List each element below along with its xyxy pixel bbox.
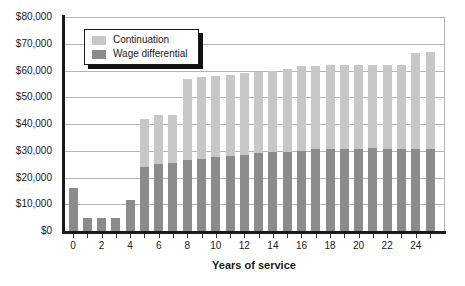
x-axis-line — [62, 231, 446, 234]
bar-segment-wage-differential — [354, 149, 363, 231]
bar-segment-continuation — [154, 115, 163, 164]
x-tick — [130, 234, 131, 238]
bar-segment-continuation — [368, 65, 377, 148]
x-tick — [230, 234, 231, 238]
y-tick-label: $40,000 — [0, 119, 52, 129]
bar-segment-wage-differential — [283, 152, 292, 231]
bar-segment-continuation — [297, 66, 306, 150]
x-tick-label: 16 — [291, 240, 311, 251]
bar-segment-wage-differential — [154, 164, 163, 231]
continuation-swatch-icon — [92, 36, 106, 45]
x-tick-label: 6 — [149, 240, 169, 251]
x-tick — [187, 234, 188, 238]
x-tick-label: 20 — [349, 240, 369, 251]
bar-segment-continuation — [140, 119, 149, 167]
bar-segment-continuation — [426, 52, 435, 150]
legend: Continuation Wage differential — [84, 29, 199, 65]
x-tick — [244, 234, 245, 238]
x-tick — [159, 234, 160, 238]
x-tick-label: 4 — [120, 240, 140, 251]
bar-segment-wage-differential — [140, 167, 149, 231]
y-tick-label: $20,000 — [0, 173, 52, 183]
bar-segment-continuation — [226, 75, 235, 157]
wage-differential-swatch-icon — [92, 50, 106, 59]
bar-segment-wage-differential — [183, 160, 192, 231]
bar-segment-continuation — [283, 69, 292, 152]
x-tick — [259, 234, 260, 238]
y-tick-label: $30,000 — [0, 146, 52, 156]
x-tick — [330, 234, 331, 238]
x-tick — [116, 234, 117, 238]
bar-segment-continuation — [326, 65, 335, 149]
bar-segment-continuation — [254, 72, 263, 154]
y-axis-line — [62, 15, 65, 234]
bar-segment-wage-differential — [254, 153, 263, 231]
y-tick-label: $10,000 — [0, 199, 52, 209]
legend-label: Continuation — [113, 34, 169, 46]
x-tick — [430, 234, 431, 238]
y-tick-label: $60,000 — [0, 66, 52, 76]
x-tick — [87, 234, 88, 238]
bar-segment-wage-differential — [340, 149, 349, 231]
x-tick — [387, 234, 388, 238]
x-tick-label: 14 — [263, 240, 283, 251]
bar-segment-continuation — [268, 71, 277, 153]
legend-label: Wage differential — [113, 48, 188, 60]
x-axis-title: Years of service — [64, 259, 444, 271]
bar-segment-wage-differential — [83, 218, 92, 231]
x-tick — [216, 234, 217, 238]
bar-segment-wage-differential — [426, 149, 435, 231]
x-tick-label: 18 — [320, 240, 340, 251]
bar-segment-wage-differential — [311, 149, 320, 231]
bar-segment-continuation — [183, 79, 192, 161]
bar-segment-wage-differential — [97, 218, 106, 231]
bar-segment-wage-differential — [326, 149, 335, 231]
bar-segment-wage-differential — [368, 148, 377, 231]
bar-segment-wage-differential — [69, 188, 78, 231]
x-tick-label: 24 — [406, 240, 426, 251]
plot-right-border — [444, 17, 445, 231]
y-tick-label: $80,000 — [0, 12, 52, 22]
x-tick — [73, 234, 74, 238]
bar-segment-continuation — [240, 73, 249, 155]
x-tick — [102, 234, 103, 238]
x-tick-label: 0 — [63, 240, 83, 251]
bar-segment-continuation — [411, 53, 420, 149]
y-tick-label: $50,000 — [0, 92, 52, 102]
legend-item-continuation: Continuation — [92, 34, 188, 46]
y-tick-label: $0 — [0, 226, 52, 236]
x-tick-label: 2 — [92, 240, 112, 251]
x-tick — [144, 234, 145, 238]
x-tick-label: 10 — [206, 240, 226, 251]
stacked-bar-chart: $0$10,000$20,000$30,000$40,000$50,000$60… — [0, 0, 465, 286]
bar-segment-wage-differential — [240, 155, 249, 231]
bar-segment-wage-differential — [111, 218, 120, 231]
x-tick — [359, 234, 360, 238]
bar-segment-wage-differential — [226, 156, 235, 231]
x-tick-label: 22 — [377, 240, 397, 251]
x-tick — [287, 234, 288, 238]
x-tick-label: 8 — [177, 240, 197, 251]
gridline — [64, 17, 444, 18]
bar-segment-continuation — [383, 65, 392, 149]
bar-segment-wage-differential — [168, 163, 177, 231]
bar-segment-wage-differential — [126, 200, 135, 231]
bar-segment-continuation — [168, 115, 177, 163]
bar-segment-continuation — [197, 77, 206, 159]
y-tick-label: $70,000 — [0, 39, 52, 49]
bar-segment-continuation — [340, 65, 349, 149]
x-tick — [401, 234, 402, 238]
x-tick — [373, 234, 374, 238]
bar-segment-wage-differential — [383, 149, 392, 231]
x-tick-label: 12 — [234, 240, 254, 251]
legend-item-wage-differential: Wage differential — [92, 48, 188, 60]
bar-segment-wage-differential — [268, 152, 277, 231]
bar-segment-continuation — [397, 65, 406, 149]
x-tick — [416, 234, 417, 238]
x-tick — [202, 234, 203, 238]
x-tick — [273, 234, 274, 238]
bar-segment-wage-differential — [411, 149, 420, 231]
bar-segment-wage-differential — [211, 157, 220, 231]
x-tick — [316, 234, 317, 238]
bar-segment-continuation — [211, 76, 220, 158]
